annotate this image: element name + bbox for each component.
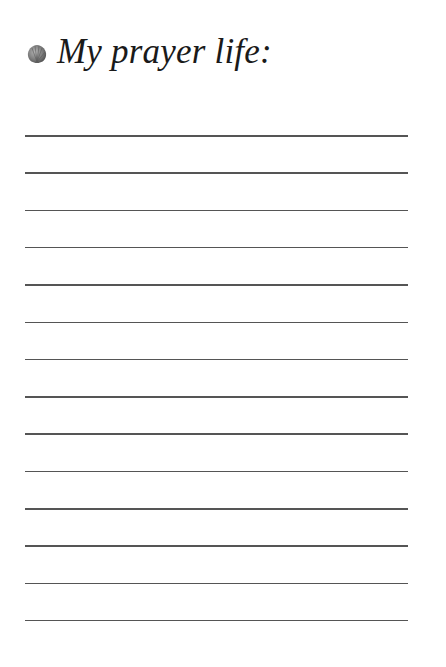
writing-line [25,583,408,585]
writing-line [25,135,408,137]
writing-line [25,359,408,361]
writing-line [25,284,408,286]
writing-line [25,471,408,473]
writing-line [25,172,408,174]
writing-line [25,210,408,212]
writing-line [25,396,408,398]
shell-icon [26,44,48,64]
section-heading: My prayer life: [26,34,272,69]
page-title: My prayer life: [57,34,272,69]
writing-line [25,322,408,324]
writing-line [25,620,408,622]
writing-line [25,433,408,435]
writing-line [25,545,408,547]
writing-line [25,508,408,510]
writing-line [25,247,408,249]
